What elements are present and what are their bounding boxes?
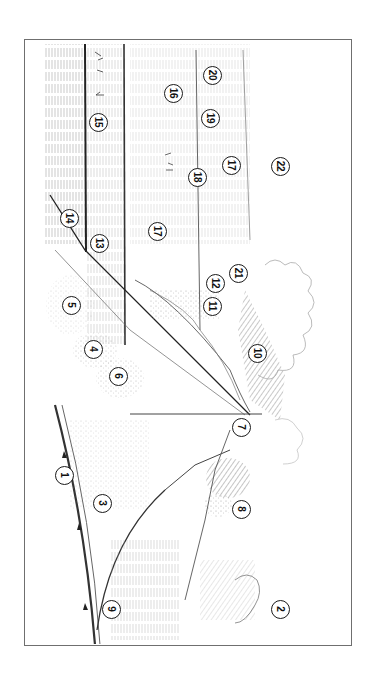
- callout-marker: 16: [164, 84, 183, 103]
- callout-marker: 6: [109, 367, 128, 386]
- callout-marker: 14: [60, 209, 79, 228]
- callout-number: 16: [168, 88, 178, 99]
- callout-marker: 22: [271, 157, 290, 176]
- callout-marker: 3: [93, 494, 112, 513]
- callout-marker: 4: [84, 340, 103, 359]
- callout-number: 13: [94, 238, 104, 249]
- callout-marker: 11: [203, 297, 222, 316]
- callout-number: 7: [236, 424, 246, 429]
- callout-number: 4: [88, 346, 98, 351]
- callout-marker: 13: [90, 234, 109, 253]
- callout-marker: 2: [271, 600, 290, 619]
- callout-number: 5: [66, 302, 76, 307]
- callout-marker: 15: [89, 113, 108, 132]
- callout-number: 21: [233, 268, 243, 279]
- callout-number: 20: [207, 70, 217, 81]
- callout-number: 6: [113, 373, 123, 378]
- callout-number: 14: [64, 213, 74, 224]
- callout-number: 3: [97, 500, 107, 505]
- callout-marker: 21: [229, 264, 248, 283]
- callout-marker: 18: [188, 168, 207, 187]
- callout-number: 8: [236, 506, 246, 511]
- callout-marker: 1: [55, 466, 74, 485]
- callout-number: 15: [93, 117, 103, 128]
- callout-number: 22: [275, 161, 285, 172]
- landscape-drawing: [0, 0, 371, 679]
- callout-marker: 17: [222, 156, 241, 175]
- callout-number: 9: [106, 606, 116, 611]
- callout-number: 18: [192, 172, 202, 183]
- callout-number: 19: [205, 113, 215, 124]
- callout-marker: 9: [102, 600, 121, 619]
- callout-marker: 8: [232, 500, 251, 519]
- callout-marker: 19: [201, 109, 220, 128]
- callout-marker: 10: [248, 344, 267, 363]
- callout-number: 17: [152, 226, 162, 237]
- landscape-illustration: 1234567891011121314151617171819202122: [0, 0, 371, 679]
- callout-number: 2: [275, 606, 285, 611]
- callout-marker: 20: [203, 66, 222, 85]
- callout-number: 12: [210, 278, 220, 289]
- callout-number: 1: [59, 472, 69, 477]
- callout-marker: 12: [206, 274, 225, 293]
- callout-marker: 17: [148, 222, 167, 241]
- callout-marker: 7: [232, 418, 251, 437]
- callout-number: 11: [207, 301, 217, 311]
- callout-number: 17: [226, 160, 236, 171]
- callout-number: 10: [252, 348, 262, 359]
- callout-marker: 5: [62, 296, 81, 315]
